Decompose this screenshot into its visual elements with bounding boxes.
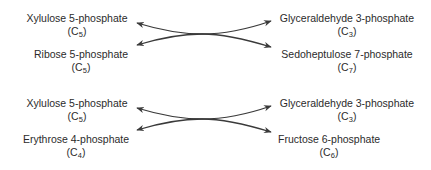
double-arrow-icon: [137, 106, 271, 119]
double-arrow-icon: [137, 119, 271, 132]
reaction2-arrows: [137, 106, 271, 132]
double-arrow-icon: [137, 34, 271, 47]
reaction1-arrows: [137, 21, 271, 47]
double-arrow-icon: [137, 21, 271, 34]
reaction-arrows: [0, 0, 431, 170]
